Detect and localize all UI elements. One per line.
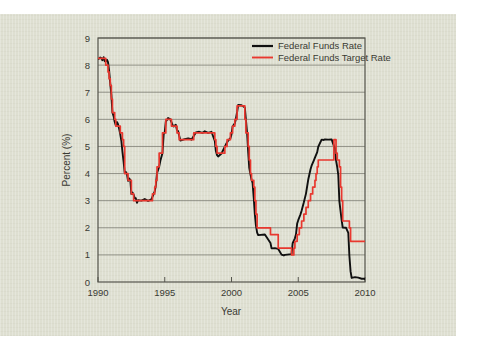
y-tick-label: 7: [85, 87, 90, 98]
x-axis-ticks: [98, 277, 365, 282]
x-tick-label: 2000: [221, 287, 242, 298]
figure-root: 0123456789 19901995200020052010 Federal …: [0, 0, 486, 357]
x-tick-label: 1990: [87, 287, 108, 298]
federal-funds-rate-chart: 0123456789 19901995200020052010 Federal …: [0, 0, 486, 357]
x-tick-label: 1995: [154, 287, 175, 298]
series-line: [98, 57, 365, 279]
y-tick-label: 2: [85, 222, 90, 233]
x-tick-label: 2005: [288, 287, 309, 298]
y-tick-label: 1: [85, 249, 90, 260]
y-tick-label: 6: [85, 114, 90, 125]
y-axis-tick-labels: 0123456789: [85, 33, 90, 288]
y-tick-label: 4: [85, 168, 90, 179]
y-tick-label: 9: [85, 33, 90, 44]
x-axis-title: Year: [221, 306, 242, 317]
gridlines: [98, 38, 365, 255]
x-axis-tick-labels: 19901995200020052010: [87, 287, 375, 298]
legend-label: Federal Funds Target Rate: [278, 52, 391, 63]
y-axis-title: Percent (%): [61, 134, 72, 187]
y-tick-label: 8: [85, 60, 90, 71]
data-series-layer: [98, 57, 365, 279]
y-tick-label: 0: [85, 277, 90, 288]
chart-legend: Federal Funds RateFederal Funds Target R…: [252, 40, 391, 63]
x-tick-label: 2010: [354, 287, 375, 298]
series-line: [98, 58, 365, 255]
legend-label: Federal Funds Rate: [278, 40, 362, 51]
y-tick-label: 5: [85, 141, 90, 152]
y-tick-label: 3: [85, 195, 90, 206]
